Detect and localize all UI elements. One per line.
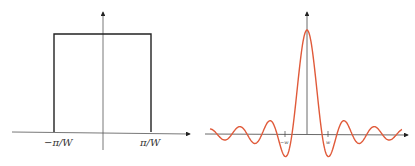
rect-panel: −π/W π/W xyxy=(12,12,190,150)
sinc-function-curve xyxy=(210,30,402,157)
sinc-label-left: −w xyxy=(280,139,289,145)
sinc-label-right: w xyxy=(326,139,331,145)
rect-label-left: −π/W xyxy=(44,137,73,148)
rect-function-curve xyxy=(54,34,151,132)
rect-x-axis xyxy=(12,132,190,134)
diagram-canvas: −π/W π/W −w w xyxy=(0,0,415,166)
rect-label-right: π/W xyxy=(139,137,161,148)
sinc-panel: −w w xyxy=(205,12,408,157)
sinc-x-axis xyxy=(205,134,408,135)
